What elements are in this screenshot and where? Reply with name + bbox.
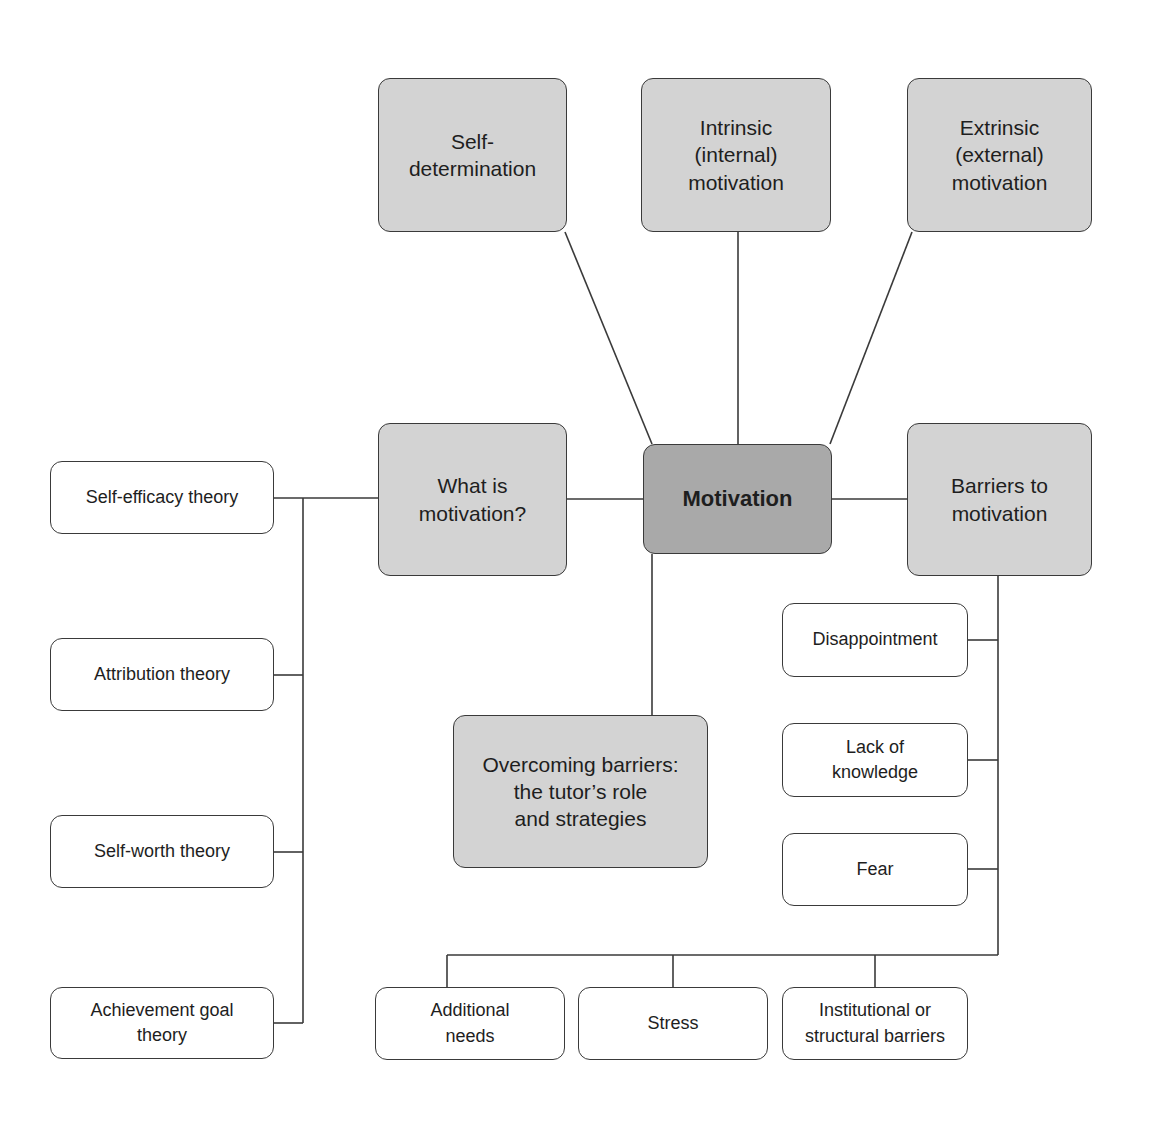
line-extrinsic — [830, 232, 912, 444]
node-label: Disappointment — [812, 627, 937, 652]
node-institutional-barriers: Institutional or structural barriers — [782, 987, 968, 1060]
node-label: Lack of knowledge — [832, 735, 918, 785]
node-label: Intrinsic (internal) motivation — [688, 114, 784, 196]
node-label: Institutional or structural barriers — [805, 998, 945, 1048]
node-label: Self- determination — [409, 128, 536, 183]
node-overcoming-barriers: Overcoming barriers: the tutor’s role an… — [453, 715, 708, 868]
node-label: Extrinsic (external) motivation — [952, 114, 1048, 196]
node-lack-of-knowledge: Lack of knowledge — [782, 723, 968, 797]
node-label: Additional needs — [430, 998, 509, 1048]
node-label: Fear — [856, 857, 893, 882]
node-stress: Stress — [578, 987, 768, 1060]
node-label: Self-efficacy theory — [86, 485, 239, 510]
node-label: What is motivation? — [419, 472, 526, 527]
node-self-worth-theory: Self-worth theory — [50, 815, 274, 888]
node-self-efficacy-theory: Self-efficacy theory — [50, 461, 274, 534]
node-disappointment: Disappointment — [782, 603, 968, 677]
node-label: Stress — [647, 1011, 698, 1036]
node-what-is-motivation: What is motivation? — [378, 423, 567, 576]
node-motivation-central: Motivation — [643, 444, 832, 554]
node-label: Barriers to motivation — [951, 472, 1048, 527]
node-attribution-theory: Attribution theory — [50, 638, 274, 711]
node-fear: Fear — [782, 833, 968, 906]
node-extrinsic-motivation: Extrinsic (external) motivation — [907, 78, 1092, 232]
node-additional-needs: Additional needs — [375, 987, 565, 1060]
node-barriers-to-motivation: Barriers to motivation — [907, 423, 1092, 576]
node-achievement-goal-theory: Achievement goal theory — [50, 987, 274, 1059]
node-label: Motivation — [683, 485, 793, 514]
node-label: Attribution theory — [94, 662, 230, 687]
node-label: Achievement goal theory — [90, 998, 233, 1048]
node-self-determination: Self- determination — [378, 78, 567, 232]
node-label: Overcoming barriers: the tutor’s role an… — [482, 751, 678, 833]
node-label: Self-worth theory — [94, 839, 230, 864]
line-self-determination — [565, 232, 652, 444]
node-intrinsic-motivation: Intrinsic (internal) motivation — [641, 78, 831, 232]
